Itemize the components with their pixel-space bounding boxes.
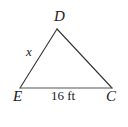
side-label-base-measure: 16 ft	[51, 89, 75, 102]
vertex-label-D: D	[54, 9, 65, 24]
vertex-label-E: E	[13, 89, 22, 104]
vertex-label-C: C	[106, 89, 116, 104]
geometry-figure: D x E 16 ft C	[0, 0, 128, 127]
side-label-x: x	[26, 45, 32, 58]
side-DC	[57, 29, 112, 88]
